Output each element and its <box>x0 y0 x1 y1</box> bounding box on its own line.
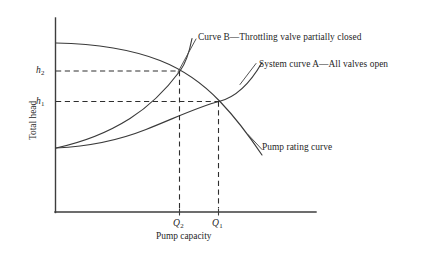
y-tick-h2-sub: 2 <box>41 69 44 76</box>
curve-b-throttled <box>56 39 192 149</box>
x-tick-label-q1: Q1 <box>212 218 222 228</box>
x-axis-title: Pump capacity <box>156 232 211 241</box>
y-tick-label-h1: h1 <box>36 96 44 106</box>
pump-rating-annotation: Pump rating curve <box>262 143 332 152</box>
x-tick-q2-sub: 2 <box>180 222 183 229</box>
x-tick-label-q2: Q2 <box>173 218 183 228</box>
system-curve-a-annotation: System curve A—All valves open <box>259 60 388 69</box>
system-curve-a <box>56 63 262 149</box>
curve-b-leader-line <box>178 39 196 72</box>
pump-rating-curve <box>56 43 262 155</box>
curve-b-annotation: Curve B—Throttling valve partially close… <box>198 33 361 42</box>
y-axis-title: Total head <box>29 101 38 140</box>
x-tick-q2-base: Q <box>173 217 180 228</box>
x-tick-q1-base: Q <box>212 217 219 228</box>
y-tick-label-h2: h2 <box>36 65 44 75</box>
pump-system-curve-figure: Total head Pump capacity h2 h1 Q2 Q1 Cur… <box>0 0 421 259</box>
system-curve-a-leader-line <box>240 64 256 85</box>
pump-rating-leader-line <box>248 135 262 150</box>
x-tick-q1-sub: 1 <box>219 222 222 229</box>
y-tick-h1-sub: 1 <box>41 100 44 107</box>
